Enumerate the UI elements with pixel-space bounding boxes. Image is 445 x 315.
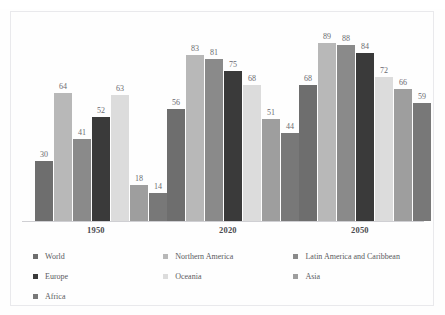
x-tick-label-2050: 2050 (351, 225, 369, 235)
legend-item-northern-america[interactable]: Northern America (163, 252, 293, 261)
bar-group-2020: 56838175685144 (167, 21, 299, 221)
legend-item-asia[interactable]: Asia (293, 272, 433, 281)
plot-area: 3064415263181456838175685144688988847266… (22, 21, 424, 221)
bar[interactable] (394, 89, 412, 221)
bar-value-label: 63 (116, 84, 124, 94)
legend-label: Oceania (175, 272, 201, 281)
bar-slot: 83 (186, 21, 204, 221)
bar-value-label: 89 (323, 32, 331, 42)
legend-swatch-icon (293, 254, 298, 259)
legend-label: Africa (45, 292, 65, 301)
bar[interactable] (356, 53, 374, 221)
bar-value-label: 81 (210, 48, 218, 58)
bar-slot: 72 (375, 21, 393, 221)
legend-label: Northern America (175, 252, 233, 261)
bar-value-label: 14 (154, 182, 162, 192)
bar[interactable] (375, 77, 393, 221)
bar-value-label: 44 (286, 122, 294, 132)
legend-swatch-icon (163, 274, 168, 279)
bar-slot: 75 (224, 21, 242, 221)
bar[interactable] (92, 117, 110, 221)
bar-slot: 68 (299, 21, 317, 221)
bar[interactable] (224, 71, 242, 221)
legend-label: Asia (305, 272, 320, 281)
bar-value-label: 75 (229, 60, 237, 70)
bar[interactable] (35, 161, 53, 221)
legend-label: World (45, 252, 65, 261)
legend-row: WorldNorthern AmericaLatin America and C… (33, 252, 433, 261)
bar-slot: 66 (394, 21, 412, 221)
legend-label: Europe (45, 272, 68, 281)
bar-value-label: 64 (59, 82, 67, 92)
legend-swatch-icon (163, 254, 168, 259)
legend-item-world[interactable]: World (33, 252, 163, 261)
bar-value-label: 68 (248, 74, 256, 84)
bar-slot: 89 (318, 21, 336, 221)
bar-value-label: 52 (97, 106, 105, 116)
legend-swatch-icon (33, 254, 38, 259)
bar[interactable] (186, 55, 204, 221)
bar-value-label: 56 (172, 98, 180, 108)
legend-swatch-icon (33, 274, 38, 279)
chart-legend: WorldNorthern AmericaLatin America and C… (33, 252, 433, 312)
bar-slot: 59 (413, 21, 431, 221)
bar-slot: 84 (356, 21, 374, 221)
bar[interactable] (130, 185, 148, 221)
legend-row: EuropeOceaniaAsia (33, 272, 433, 281)
bar-slot: 68 (243, 21, 261, 221)
bar-slot: 64 (54, 21, 72, 221)
chart-frame: 3064415263181456838175685144688988847266… (10, 11, 434, 306)
bar-slot: 18 (130, 21, 148, 221)
bar[interactable] (262, 119, 280, 221)
bar-value-label: 83 (191, 44, 199, 54)
bar-slot: 14 (149, 21, 167, 221)
top-cutoff-artifact (0, 0, 445, 9)
bar-value-label: 66 (399, 78, 407, 88)
bar[interactable] (54, 93, 72, 221)
x-tick-label-2020: 2020 (219, 225, 237, 235)
chart-page: 3064415263181456838175685144688988847266… (0, 0, 445, 315)
bar-value-label: 84 (361, 42, 369, 52)
legend-label: Latin America and Caribbean (305, 252, 399, 261)
bar-value-label: 30 (40, 150, 48, 160)
bar-value-label: 88 (342, 34, 350, 44)
bar[interactable] (205, 59, 223, 221)
bar-value-label: 51 (267, 108, 275, 118)
legend-row: Africa (33, 292, 433, 301)
bar-group-2050: 68898884726659 (299, 21, 431, 221)
bar[interactable] (337, 45, 355, 221)
bar-slot: 41 (73, 21, 91, 221)
bar[interactable] (243, 85, 261, 221)
bar-slot: 44 (281, 21, 299, 221)
bar[interactable] (318, 43, 336, 221)
bar-value-label: 59 (418, 92, 426, 102)
bar-value-label: 18 (135, 174, 143, 184)
legend-item-oceania[interactable]: Oceania (163, 272, 293, 281)
legend-swatch-icon (293, 274, 298, 279)
legend-swatch-icon (33, 294, 38, 299)
legend-item-latin-america-and-caribbean[interactable]: Latin America and Caribbean (293, 252, 433, 261)
bar-slot: 81 (205, 21, 223, 221)
x-tick-label-1950: 1950 (87, 225, 105, 235)
bar-value-label: 68 (304, 74, 312, 84)
bar-value-label: 72 (380, 66, 388, 76)
bar-slot: 56 (167, 21, 185, 221)
legend-item-europe[interactable]: Europe (33, 272, 163, 281)
x-axis-line (22, 221, 424, 222)
bar-value-label: 41 (78, 128, 86, 138)
bar[interactable] (73, 139, 91, 221)
bar-slot: 51 (262, 21, 280, 221)
bar[interactable] (281, 133, 299, 221)
bar-slot: 88 (337, 21, 355, 221)
bar-group-1950: 30644152631814 (35, 21, 167, 221)
bar[interactable] (413, 103, 431, 221)
bar[interactable] (149, 193, 167, 221)
bar-slot: 52 (92, 21, 110, 221)
bar-slot: 30 (35, 21, 53, 221)
bar[interactable] (167, 109, 185, 221)
bar[interactable] (111, 95, 129, 221)
bar-slot: 63 (111, 21, 129, 221)
legend-item-africa[interactable]: Africa (33, 292, 173, 301)
bar[interactable] (299, 85, 317, 221)
